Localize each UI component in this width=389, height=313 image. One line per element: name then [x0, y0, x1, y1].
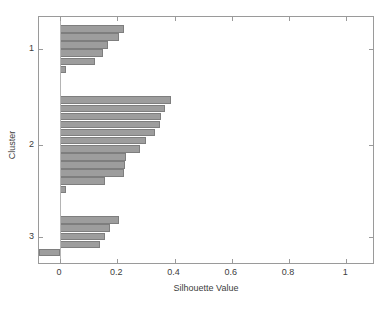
silhouette-bar — [39, 249, 60, 257]
silhouette-bar — [60, 58, 95, 66]
silhouette-bar — [60, 49, 103, 57]
y-axis-tick-right — [369, 49, 373, 50]
x-axis-tick-top — [289, 17, 290, 21]
x-axis-tick — [289, 259, 290, 263]
y-axis-tick-right — [369, 145, 373, 146]
silhouette-bar — [60, 169, 124, 177]
x-axis-tick — [60, 259, 61, 263]
x-axis-tick-label: 1 — [343, 267, 348, 277]
silhouette-bar — [60, 129, 155, 137]
silhouette-bar — [60, 224, 110, 232]
y-axis-tick — [39, 49, 43, 50]
silhouette-bar — [60, 161, 125, 169]
silhouette-bar — [60, 41, 108, 49]
silhouette-bar — [60, 96, 171, 104]
y-axis-tick-label: 2 — [24, 139, 34, 149]
x-axis-label: Silhouette Value — [38, 283, 374, 293]
x-axis-tick-label: 0.6 — [225, 267, 238, 277]
x-axis-tick-top — [60, 17, 61, 21]
x-axis-tick-label: 0.4 — [167, 267, 180, 277]
x-axis-tick-top — [232, 17, 233, 21]
x-axis-tick-top — [117, 17, 118, 21]
silhouette-bar — [60, 177, 105, 185]
x-axis-tick-top — [175, 17, 176, 21]
x-axis-tick — [346, 259, 347, 263]
silhouette-bar — [60, 113, 161, 121]
silhouette-bar — [60, 216, 119, 224]
silhouette-bar — [60, 121, 160, 129]
silhouette-bar — [60, 145, 140, 153]
y-axis-tick-right — [369, 237, 373, 238]
y-axis-tick — [39, 237, 43, 238]
silhouette-plot-figure: 00.20.40.60.81123 Silhouette Value Clust… — [0, 0, 389, 313]
silhouette-bar — [60, 233, 105, 241]
silhouette-bar — [60, 25, 124, 33]
silhouette-bar — [60, 105, 165, 113]
x-axis-tick-label: 0.2 — [110, 267, 123, 277]
plot-canvas — [39, 17, 373, 263]
y-axis-tick-label: 1 — [24, 43, 34, 53]
x-axis-tick — [232, 259, 233, 263]
silhouette-bar — [60, 241, 100, 249]
silhouette-bar — [60, 33, 119, 41]
x-axis-tick-label: 0.8 — [282, 267, 295, 277]
x-axis-tick — [117, 259, 118, 263]
silhouette-bar — [60, 137, 146, 145]
zero-reference-line — [60, 17, 61, 263]
silhouette-bar — [60, 153, 126, 161]
x-axis-tick-label: 0 — [57, 267, 62, 277]
y-axis-tick — [39, 145, 43, 146]
x-axis-tick — [175, 259, 176, 263]
x-axis-tick-top — [346, 17, 347, 21]
plot-axes — [38, 16, 374, 264]
y-axis-tick-label: 3 — [24, 231, 34, 241]
y-axis-label: Cluster — [7, 115, 17, 175]
